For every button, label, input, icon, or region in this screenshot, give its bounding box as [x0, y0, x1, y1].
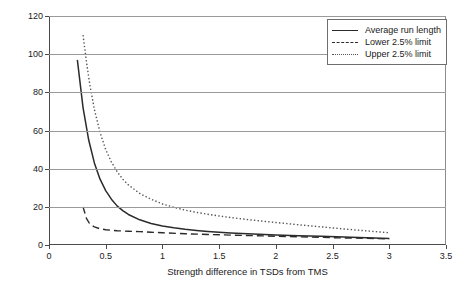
legend-item-label: Upper 2.5% limit [365, 49, 431, 59]
legend-line-icon [332, 38, 358, 47]
legend-item-label: Lower 2.5% limit [365, 37, 431, 47]
x-tick-label: 0.5 [99, 252, 112, 261]
chart-legend: Average run lengthLower 2.5% limitUpper … [327, 19, 447, 65]
y-tick-label: 80 [33, 88, 43, 97]
y-tick-label: 0 [38, 241, 43, 250]
x-tick-mark [446, 245, 447, 249]
legend-item[interactable]: Upper 2.5% limit [332, 48, 441, 60]
x-tick-mark [219, 245, 220, 249]
x-tick-label: 2.5 [326, 252, 339, 261]
legend-item-label: Average run length [365, 25, 441, 35]
y-tick-label: 40 [33, 164, 43, 173]
y-tick-label: 100 [28, 50, 43, 59]
y-tick-label: 120 [28, 12, 43, 21]
x-tick-label: 3.5 [440, 252, 453, 261]
y-tick-label: 60 [33, 126, 43, 135]
x-tick-mark [389, 245, 390, 249]
x-tick-mark [276, 245, 277, 249]
gridline [49, 92, 446, 93]
legend-item[interactable]: Average run length [332, 24, 441, 36]
gridline [49, 16, 446, 17]
x-tick-mark [106, 245, 107, 249]
gridline [49, 131, 446, 132]
y-tick-mark [45, 169, 49, 170]
x-tick-label: 3 [387, 252, 392, 261]
y-tick-mark [45, 207, 49, 208]
legend-item[interactable]: Lower 2.5% limit [332, 36, 441, 48]
x-tick-mark [162, 245, 163, 249]
y-tick-mark [45, 131, 49, 132]
legend-line-icon [332, 50, 358, 59]
x-tick-label: 1.5 [213, 252, 226, 261]
legend-line-icon [332, 26, 358, 35]
gridline [49, 169, 446, 170]
y-tick-label: 20 [33, 202, 43, 211]
y-tick-mark [45, 16, 49, 17]
x-tick-label: 1 [160, 252, 165, 261]
line-chart: 020406080100120 00.511.522.533.5 No. of … [0, 0, 461, 286]
x-tick-mark [49, 245, 50, 249]
x-axis-title: Strength difference in TSDs from TMS [49, 266, 446, 277]
gridline [49, 207, 446, 208]
y-tick-mark [45, 54, 49, 55]
x-tick-mark [333, 245, 334, 249]
x-tick-label: 2 [273, 252, 278, 261]
y-tick-mark [45, 92, 49, 93]
x-tick-label: 0 [46, 252, 51, 261]
